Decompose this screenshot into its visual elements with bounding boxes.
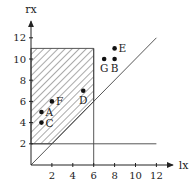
x-axis-label: lx xyxy=(179,159,190,172)
y-tick-label: 2 xyxy=(20,138,26,149)
y-axis-label: rx xyxy=(25,3,37,16)
y-tick-label: 6 xyxy=(20,96,26,107)
x-tick-label: 6 xyxy=(91,170,97,181)
query-region-diagram: 2468101224681012 ABCDEFG lx rx xyxy=(0,0,193,191)
x-tick-label: 8 xyxy=(111,170,117,181)
x-tick-label: 12 xyxy=(150,170,163,181)
x-tick-label: 4 xyxy=(70,170,76,181)
point-F xyxy=(50,99,55,104)
point-B xyxy=(112,57,117,62)
point-G xyxy=(102,57,107,62)
point-label-F: F xyxy=(56,95,63,107)
diagram-canvas: 2468101224681012 ABCDEFG lx rx xyxy=(0,0,193,191)
x-tick-label: 2 xyxy=(49,170,55,181)
point-label-D: D xyxy=(79,94,87,106)
x-tick-label: 10 xyxy=(129,170,142,181)
point-D xyxy=(81,89,86,94)
y-tick-label: 10 xyxy=(13,54,26,65)
point-label-C: C xyxy=(45,117,53,129)
y-tick-label: 12 xyxy=(13,32,26,43)
point-C xyxy=(39,120,44,125)
point-label-B: B xyxy=(111,62,119,74)
point-E xyxy=(112,46,117,51)
y-tick-label: 8 xyxy=(20,75,26,86)
point-label-G: G xyxy=(100,62,108,74)
y-tick-label: 4 xyxy=(20,117,26,128)
point-label-E: E xyxy=(119,42,127,54)
point-A xyxy=(39,110,44,115)
